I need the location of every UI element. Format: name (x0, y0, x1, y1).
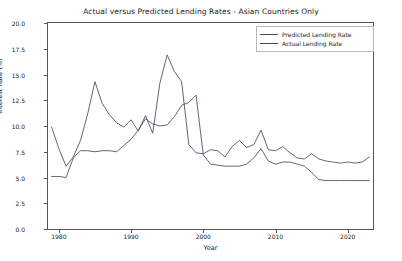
x-tick-label: 2000 (196, 233, 211, 240)
y-tick-label: 2.5 (15, 200, 25, 207)
legend-label-predicted: Predicted Lending Rate (282, 30, 352, 39)
y-axis-label: Interest Rate (%) (0, 0, 4, 92)
y-tick-label: 17.5 (12, 45, 25, 52)
lending-rates-line-plot (48, 23, 373, 229)
x-tick-label: 1980 (51, 233, 66, 240)
legend-item-actual: Actual Lending Rate (260, 39, 369, 48)
predicted-line-swatch-icon (260, 34, 278, 35)
y-tick-label: 15.0 (12, 71, 25, 78)
y-tick-label: 12.5 (12, 97, 25, 104)
plot-area (47, 22, 374, 230)
chart-title: Actual versus Predicted Lending Rates - … (0, 7, 402, 16)
x-tick-mark (59, 230, 60, 233)
x-tick-mark (276, 230, 277, 233)
x-tick-mark (203, 230, 204, 233)
x-tick-mark (131, 230, 132, 233)
y-tick-label: 20.0 (12, 20, 25, 27)
series-line-predicted (52, 55, 370, 166)
legend-label-actual: Actual Lending Rate (282, 39, 342, 48)
series-line-actual (52, 95, 370, 180)
actual-line-swatch-icon (260, 43, 278, 44)
y-axis-label-text: Interest Rate (%) (0, 58, 4, 113)
y-tick-label: 10.0 (12, 123, 25, 130)
x-tick-label: 2010 (268, 233, 283, 240)
chart-legend: Predicted Lending Rate Actual Lending Ra… (256, 26, 374, 52)
y-tick-label: 0.0 (15, 226, 25, 233)
y-tick-label: 5.0 (15, 174, 25, 181)
x-tick-label: 1990 (123, 233, 138, 240)
x-axis-label: Year (47, 244, 374, 252)
x-tick-label: 2020 (340, 233, 355, 240)
legend-item-predicted: Predicted Lending Rate (260, 30, 369, 39)
y-tick-label: 7.5 (15, 148, 25, 155)
chart-figure: Actual versus Predicted Lending Rates - … (0, 0, 402, 261)
x-tick-mark (348, 230, 349, 233)
